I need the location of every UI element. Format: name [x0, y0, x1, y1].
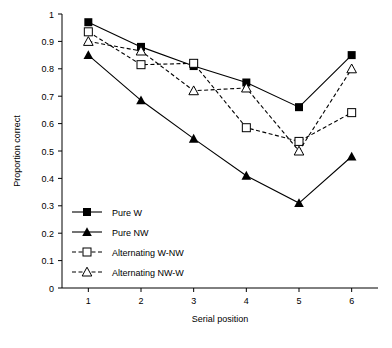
legend-marker: [83, 248, 91, 256]
data-point: [347, 64, 357, 73]
y-tick-label: 0.4: [41, 174, 54, 184]
data-point: [189, 86, 199, 95]
y-tick-label: 0.2: [41, 229, 54, 239]
y-tick-label: 0.5: [41, 147, 54, 157]
series-line: [88, 55, 351, 203]
data-point: [347, 152, 357, 161]
data-point: [189, 134, 199, 143]
legend-item-3: Alternating W-NW: [72, 248, 184, 258]
legend-marker: [83, 208, 91, 216]
x-tick-label: 4: [244, 296, 249, 306]
legend-label: Pure NW: [112, 228, 149, 238]
data-point: [84, 18, 92, 26]
data-point: [295, 103, 303, 111]
data-point: [348, 109, 356, 117]
x-tick-label: 1: [86, 296, 91, 306]
y-tick-label: 0.8: [41, 64, 54, 74]
data-point: [84, 50, 94, 59]
data-point: [137, 61, 145, 69]
series-line: [88, 22, 351, 107]
data-point: [84, 37, 94, 46]
data-point: [348, 51, 356, 59]
x-tick-label: 3: [191, 296, 196, 306]
legend-label: Pure W: [112, 208, 143, 218]
y-tick-label: 1: [49, 10, 54, 20]
x-tick-label: 2: [138, 296, 143, 306]
data-point: [190, 59, 198, 67]
legend-item-1: Pure W: [72, 208, 143, 218]
x-tick-label: 6: [349, 296, 354, 306]
y-axis-title: Proportion correct: [12, 115, 22, 187]
y-tick-label: 0.1: [41, 256, 54, 266]
proportion-correct-line-chart: 00.10.20.30.40.50.60.70.80.91123456Seria…: [0, 0, 392, 348]
legend-label: Alternating W-NW: [112, 248, 184, 258]
data-point: [242, 124, 250, 132]
legend-item-4: Alternating NW-W: [72, 267, 184, 277]
y-tick-label: 0.7: [41, 92, 54, 102]
y-tick-label: 0.3: [41, 201, 54, 211]
data-point: [242, 171, 252, 180]
y-tick-label: 0.6: [41, 119, 54, 129]
x-tick-label: 5: [296, 296, 301, 306]
series-1: [84, 18, 355, 111]
x-axis-title: Serial position: [192, 314, 249, 324]
data-point: [84, 28, 92, 36]
y-tick-label: 0.9: [41, 37, 54, 47]
legend-marker: [82, 267, 92, 276]
legend-item-2: Pure NW: [72, 227, 149, 237]
legend-label: Alternating NW-W: [112, 268, 184, 278]
chart-container: 00.10.20.30.40.50.60.70.80.91123456Seria…: [0, 0, 392, 348]
data-point: [295, 137, 303, 145]
y-tick-label: 0: [49, 284, 54, 294]
